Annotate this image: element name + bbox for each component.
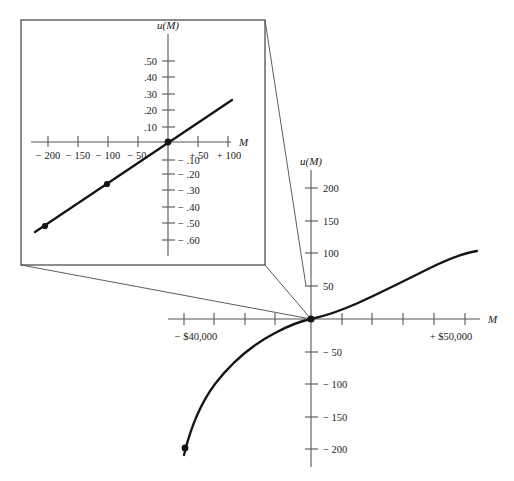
main-chart: u(M) M 200 150 100 50 − 50 − 100 − 150 −… [168, 155, 498, 467]
main-marker-origin [307, 315, 314, 322]
inset-x-label-4: + 50 [189, 150, 208, 161]
main-x-label-positive: + $50,000 [430, 331, 473, 342]
main-y-label-3: 50 [323, 281, 334, 292]
figure-root: u(M) M .50 .40 .30 .20 .10 − .10 − .20 −… [0, 0, 514, 481]
main-x-axis-title: M [487, 313, 498, 325]
inset-y-label-3: .20 [144, 105, 157, 116]
inset-marker-origin [165, 139, 172, 146]
inset-y-label-4: .10 [144, 122, 157, 133]
inset-x-label-5: + 100 [217, 150, 241, 161]
connector-bottom-left [21, 265, 311, 319]
main-y-label-neg-1: − 100 [323, 379, 347, 390]
inset-y-label-0: .50 [144, 56, 157, 67]
main-y-label-0: 200 [323, 183, 339, 194]
inset-x-label-2: − 100 [96, 150, 120, 161]
inset-y-label-neg-3: − .40 [178, 202, 200, 213]
inset-y-label-2: .30 [144, 89, 157, 100]
inset-x-label-3: − 50 [127, 150, 146, 161]
main-y-label-neg-2: − 150 [323, 412, 347, 423]
inset-y-label-neg-4: − .50 [178, 218, 200, 229]
inset-x-label-0: − 200 [36, 150, 60, 161]
inset-x-label-1: − 150 [66, 150, 90, 161]
main-x-label-negative: − $40,000 [175, 331, 218, 342]
main-y-axis-title: u(M) [300, 155, 322, 168]
inset-marker-minus-100 [104, 181, 110, 187]
inset-y-label-1: .40 [144, 72, 157, 83]
main-y-label-neg-3: − 200 [323, 444, 347, 455]
inset-x-axis-title: M [238, 136, 249, 148]
utility-function-figure: u(M) M .50 .40 .30 .20 .10 − .10 − .20 −… [0, 0, 514, 481]
main-y-label-1: 150 [323, 216, 339, 227]
inset-chart: u(M) M .50 .40 .30 .20 .10 − .10 − .20 −… [31, 19, 249, 256]
inset-y-label-neg-2: − .30 [178, 185, 200, 196]
inset-marker-minus-200 [42, 223, 48, 229]
inset-connector-lines [21, 20, 311, 319]
main-y-label-neg-0: − 50 [323, 347, 342, 358]
inset-utility-line [35, 100, 232, 232]
main-y-label-2: 100 [323, 248, 339, 259]
inset-y-label-neg-1: − .20 [178, 169, 200, 180]
main-marker-lower-left [182, 445, 189, 452]
inset-y-label-neg-5: − .60 [178, 235, 200, 246]
inset-y-axis-title: u(M) [157, 19, 179, 32]
connector-top-right [265, 20, 306, 286]
